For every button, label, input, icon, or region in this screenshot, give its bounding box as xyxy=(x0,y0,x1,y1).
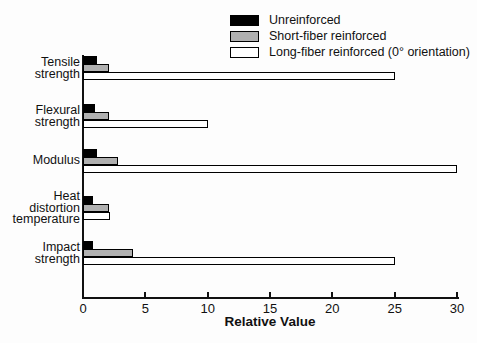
x-axis-tick xyxy=(394,292,396,297)
bar xyxy=(83,212,110,220)
category-label: Modulus xyxy=(6,155,80,167)
bar xyxy=(83,104,95,112)
x-axis-tick xyxy=(144,292,146,297)
bar xyxy=(83,157,118,165)
x-axis-line xyxy=(82,297,459,299)
category-label: Heat distortion temperature xyxy=(6,191,80,226)
x-axis-tick xyxy=(331,292,333,297)
legend: Unreinforced Short-fiber reinforced Long… xyxy=(230,13,470,61)
legend-swatch-short-fiber xyxy=(230,31,259,42)
bar xyxy=(83,72,395,80)
bar-chart-figure: Unreinforced Short-fiber reinforced Long… xyxy=(0,0,477,343)
legend-item: Long-fiber reinforced (0° orientation) xyxy=(230,45,470,59)
legend-item: Unreinforced xyxy=(230,13,470,27)
x-axis-tick xyxy=(456,292,458,297)
bar xyxy=(83,64,109,72)
bar xyxy=(83,196,93,204)
x-axis-title: Relative Value xyxy=(83,314,457,329)
bar xyxy=(83,204,109,212)
bar xyxy=(83,241,93,249)
bar xyxy=(83,149,97,157)
x-axis-tick xyxy=(269,292,271,297)
legend-item: Short-fiber reinforced xyxy=(230,29,470,43)
bar xyxy=(83,165,457,173)
bar xyxy=(83,257,395,265)
bar xyxy=(83,249,133,257)
category-label: Tensile strength xyxy=(6,57,80,80)
legend-label: Unreinforced xyxy=(269,13,341,27)
legend-swatch-unreinforced xyxy=(230,15,259,26)
x-axis-tick xyxy=(207,292,209,297)
category-label: Impact strength xyxy=(6,242,80,265)
bar xyxy=(83,120,208,128)
category-label: Flexural strength xyxy=(6,105,80,128)
legend-swatch-long-fiber xyxy=(230,47,259,58)
bar xyxy=(83,56,97,64)
legend-label: Short-fiber reinforced xyxy=(269,29,386,43)
legend-label: Long-fiber reinforced (0° orientation) xyxy=(269,45,470,59)
bar xyxy=(83,112,109,120)
